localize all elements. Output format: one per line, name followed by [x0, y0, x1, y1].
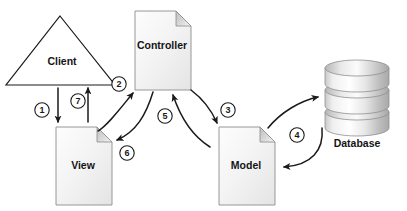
view-fold-icon	[97, 127, 112, 142]
node-view: View	[56, 127, 112, 205]
controller-fold-icon	[176, 11, 191, 26]
view-label: View	[71, 159, 96, 171]
step-5-number: 5	[162, 111, 167, 121]
mvc-diagram-canvas: Client Controller View Model	[0, 0, 407, 211]
node-controller: Controller	[135, 11, 191, 90]
step-7-number: 7	[75, 96, 80, 106]
client-label: Client	[47, 55, 77, 67]
flow-arrow-6-controller-to-view	[117, 92, 153, 140]
step-badge-2: 2	[112, 77, 126, 91]
flow-arrow-3-controller-to-model	[191, 90, 217, 123]
step-badge-1: 1	[35, 103, 49, 117]
step-1-number: 1	[39, 105, 44, 115]
database-disc-top	[325, 60, 389, 92]
client-triangle-shape	[6, 16, 115, 85]
step-badge-3: 3	[221, 103, 235, 117]
step-4-number: 4	[294, 130, 299, 140]
node-client: Client	[6, 16, 115, 85]
controller-label: Controller	[137, 39, 187, 51]
step-3-number: 3	[225, 105, 230, 115]
step-badge-7: 7	[71, 94, 85, 108]
step-badge-6: 6	[120, 146, 134, 160]
mvc-diagram: Client Controller View Model	[0, 0, 407, 211]
node-database: Database	[325, 60, 389, 149]
step-6-number: 6	[124, 148, 129, 158]
step-2-number: 2	[116, 79, 121, 89]
flow-arrow-model-to-database	[268, 97, 318, 128]
step-badge-5: 5	[158, 109, 172, 123]
model-fold-icon	[260, 127, 275, 142]
model-label: Model	[231, 159, 261, 171]
database-label: Database	[334, 137, 381, 149]
flow-arrow-2-view-to-controller	[98, 93, 133, 131]
node-model: Model	[219, 127, 275, 205]
step-badge-4: 4	[290, 128, 304, 142]
